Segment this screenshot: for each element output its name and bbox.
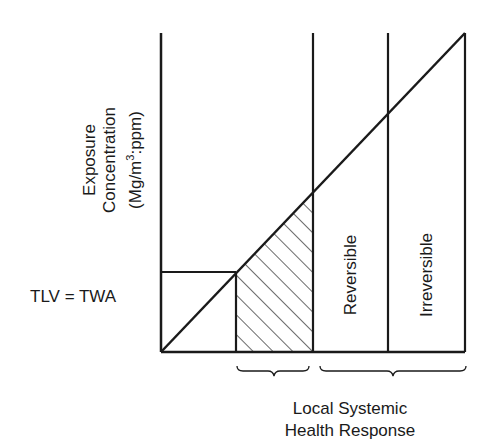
y-label-line1: Exposure bbox=[80, 107, 100, 213]
y-axis-label: Exposure Concentration (Mg/m3:ppm) bbox=[63, 40, 163, 280]
y-label-line3: (Mg/m3:ppm) bbox=[120, 107, 146, 213]
reversible-label-box: Reversible bbox=[313, 200, 388, 350]
x-axis-label: Local Systemic Health Response bbox=[265, 398, 435, 442]
tlv-twa-label: TLV = TWA bbox=[30, 287, 116, 307]
brace-systemic bbox=[320, 366, 466, 376]
x-label-line1: Local Systemic bbox=[265, 398, 435, 420]
irreversible-label-box: Irreversible bbox=[388, 200, 465, 350]
hatched-region bbox=[236, 193, 313, 352]
reversible-label: Reversible bbox=[341, 235, 361, 315]
x-label-line2: Health Response bbox=[265, 420, 435, 442]
brace-local bbox=[237, 366, 309, 376]
irreversible-label: Irreversible bbox=[417, 233, 437, 317]
y-label-line2: Concentration bbox=[100, 107, 120, 213]
